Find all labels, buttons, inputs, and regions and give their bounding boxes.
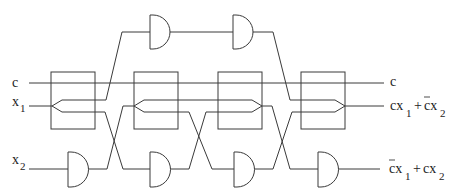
wire-box3-out bbox=[262, 106, 318, 169]
svg-text:1: 1 bbox=[20, 102, 26, 114]
wire-gate-b1-out bbox=[84, 106, 134, 169]
svg-text:x: x bbox=[12, 152, 19, 167]
wire-top-g2-out bbox=[250, 32, 345, 106]
svg-text:x: x bbox=[12, 94, 19, 109]
and-gate-bottom-2 bbox=[150, 152, 171, 187]
output-label-1: cx 1 + cx 2 bbox=[390, 97, 446, 119]
svg-text:2: 2 bbox=[20, 160, 26, 172]
svg-text:cx: cx bbox=[423, 161, 436, 176]
and-gate-top-1 bbox=[150, 15, 170, 49]
input-label-x2: x 2 bbox=[12, 152, 26, 172]
svg-text:2: 2 bbox=[440, 107, 446, 119]
svg-text:cx: cx bbox=[390, 98, 403, 113]
output-label-c: c bbox=[390, 74, 396, 89]
svg-text:+: + bbox=[413, 161, 421, 176]
wire-box3-upper bbox=[218, 100, 262, 106]
circuit-diagram: c x 1 x 2 c cx 1 bbox=[0, 0, 453, 193]
and-gate-bottom-1 bbox=[68, 152, 89, 187]
svg-text:1: 1 bbox=[405, 170, 411, 182]
and-gate-bottom-4 bbox=[318, 152, 339, 187]
svg-text:cx: cx bbox=[389, 161, 402, 176]
wire-box1-lower bbox=[52, 106, 150, 169]
and-gate-top-2 bbox=[233, 15, 253, 49]
svg-text:1: 1 bbox=[406, 107, 412, 119]
wire-box2-lower bbox=[134, 106, 234, 169]
svg-text:cx: cx bbox=[424, 98, 437, 113]
input-label-x1: x 1 bbox=[12, 94, 26, 114]
wire-box2-upper bbox=[134, 100, 218, 106]
and-gate-bottom-3 bbox=[234, 152, 255, 187]
wire-box1-upper bbox=[52, 32, 150, 106]
svg-text:+: + bbox=[414, 98, 422, 113]
input-label-c: c bbox=[12, 75, 18, 90]
svg-text:2: 2 bbox=[439, 170, 445, 182]
output-label-2: cx 1 + cx 2 bbox=[389, 160, 445, 182]
